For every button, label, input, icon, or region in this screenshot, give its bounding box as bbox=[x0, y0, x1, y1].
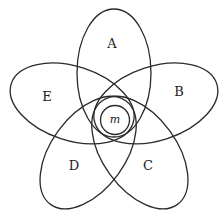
label-group: A B C D E m bbox=[42, 36, 184, 173]
label-m: m bbox=[110, 113, 120, 126]
label-b: B bbox=[174, 84, 184, 99]
label-e: E bbox=[42, 89, 52, 104]
label-c: C bbox=[143, 158, 153, 173]
petal-ellipse-e bbox=[0, 48, 144, 158]
petal-ellipse-b bbox=[84, 48, 224, 158]
label-d: D bbox=[69, 158, 79, 173]
label-a: A bbox=[106, 36, 117, 51]
flower-venn-diagram: A B C D E m bbox=[0, 0, 224, 222]
